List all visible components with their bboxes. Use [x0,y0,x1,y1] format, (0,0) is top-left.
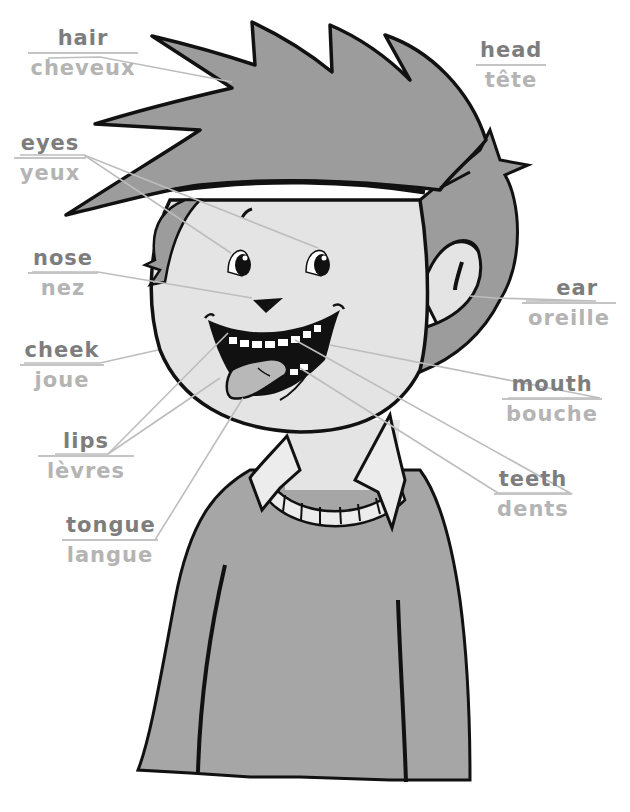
label-french: bouche [502,398,602,427]
label-english: ear [522,276,616,302]
label-french: joue [20,364,104,393]
label-nose: nose nez [28,246,98,301]
label-french: cheveux [28,52,138,81]
label-hair: hair cheveux [28,26,138,81]
label-english: eyes [14,131,86,157]
label-english: mouth [502,372,602,398]
label-french: dents [494,493,572,522]
label-french: langue [62,539,158,568]
label-tongue: tongue langue [62,513,158,568]
label-english: nose [28,246,98,272]
label-english: cheek [20,338,104,364]
label-teeth: teeth dents [494,467,572,522]
label-french: oreille [522,302,616,331]
label-english: lips [38,429,134,455]
label-eyes: eyes yeux [14,131,86,186]
label-mouth: mouth bouche [502,372,602,427]
label-ear: ear oreille [522,276,616,331]
label-english: head [476,38,546,64]
label-cheek: cheek joue [20,338,104,393]
label-french: nez [28,272,98,301]
label-lips: lips lèvres [38,429,134,484]
label-english: hair [28,26,138,52]
label-head: head tête [476,38,546,93]
label-english: teeth [494,467,572,493]
label-french: tête [476,64,546,93]
label-english: tongue [62,513,158,539]
label-french: lèvres [38,455,134,484]
label-french: yeux [14,157,86,186]
